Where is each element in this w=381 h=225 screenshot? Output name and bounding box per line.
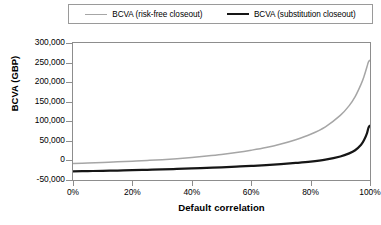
legend-line-swatch-gray-icon bbox=[85, 14, 107, 15]
y-axis-tick-label: 200,000 bbox=[35, 77, 65, 86]
plot-curves bbox=[73, 43, 370, 180]
y-axis-tick-label: 300,000 bbox=[35, 38, 65, 47]
line-series-substitution-closeout bbox=[73, 126, 370, 172]
x-axis-tick-mark bbox=[73, 181, 74, 186]
x-axis-tick-mark bbox=[192, 181, 193, 186]
legend-label-substitution-closeout: BCVA (substitution closeout) bbox=[254, 10, 356, 19]
x-axis-tick-label: 60% bbox=[243, 188, 260, 197]
y-axis-title: BCVA (GBP) bbox=[9, 24, 20, 144]
y-axis-tick-label: 150,000 bbox=[35, 97, 65, 106]
line-series-risk-free-closeout bbox=[73, 60, 370, 163]
legend-item-substitution-closeout: BCVA (substitution closeout) bbox=[227, 10, 356, 19]
x-axis-title: Default correlation bbox=[72, 202, 371, 213]
x-axis-tick-label: 40% bbox=[183, 188, 200, 197]
legend-item-risk-free-closeout: BCVA (risk-free closeout) bbox=[85, 10, 202, 19]
x-axis-tick-label: 100% bbox=[359, 188, 380, 197]
y-axis-tick-label: 0 bbox=[60, 155, 65, 164]
y-axis-tick-label: 50,000 bbox=[39, 136, 65, 145]
x-axis-tick-mark bbox=[132, 181, 133, 186]
y-axis-tick-label: 100,000 bbox=[35, 116, 65, 125]
plot-area bbox=[72, 42, 371, 181]
x-axis-tick-label: 80% bbox=[302, 188, 319, 197]
x-axis-tick-mark bbox=[311, 181, 312, 186]
y-axis-tick-label: -50,000 bbox=[37, 175, 65, 184]
chart-legend: BCVA (risk-free closeout) BCVA (substitu… bbox=[68, 4, 373, 24]
x-axis-tick-mark bbox=[251, 181, 252, 186]
x-axis-tick-mark bbox=[370, 181, 371, 186]
y-axis-tick-label: 250,000 bbox=[35, 58, 65, 67]
x-axis-tick-label: 0% bbox=[67, 188, 79, 197]
legend-line-swatch-black-icon bbox=[227, 13, 249, 15]
legend-label-risk-free-closeout: BCVA (risk-free closeout) bbox=[112, 10, 202, 19]
x-axis-tick-label: 20% bbox=[124, 188, 141, 197]
